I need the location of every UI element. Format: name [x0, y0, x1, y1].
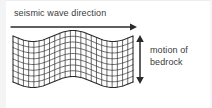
diagram-canvas	[0, 0, 212, 108]
bedrock-motion-arrowhead-up	[136, 35, 144, 42]
bedrock-motion-arrowhead-down	[136, 77, 144, 84]
seismic-wave-direction-arrowhead	[130, 23, 137, 30]
seismic-wave-figure: seismic wave direction motion of bedrock	[0, 0, 212, 108]
bedrock-wave-mesh	[13, 31, 133, 88]
